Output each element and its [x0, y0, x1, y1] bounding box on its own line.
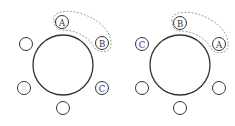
seat-empty — [213, 82, 226, 95]
round-table — [33, 35, 93, 95]
seat-label: A — [58, 18, 66, 28]
seat-label: B — [177, 19, 183, 29]
seat-label: A — [215, 40, 223, 50]
seat-empty — [57, 102, 70, 115]
right-arrangement: B A C — [136, 12, 229, 114]
seat-empty — [174, 102, 187, 115]
seat-label: B — [99, 39, 105, 49]
seat-label: C — [99, 84, 106, 94]
left-arrangement: A B C — [18, 11, 112, 114]
seat-label: C — [139, 40, 146, 50]
seat-empty — [18, 82, 31, 95]
seat-empty — [136, 82, 149, 95]
seat-empty — [20, 38, 33, 51]
round-table — [150, 35, 210, 95]
seating-diagrams: A B C B A C — [0, 0, 235, 126]
